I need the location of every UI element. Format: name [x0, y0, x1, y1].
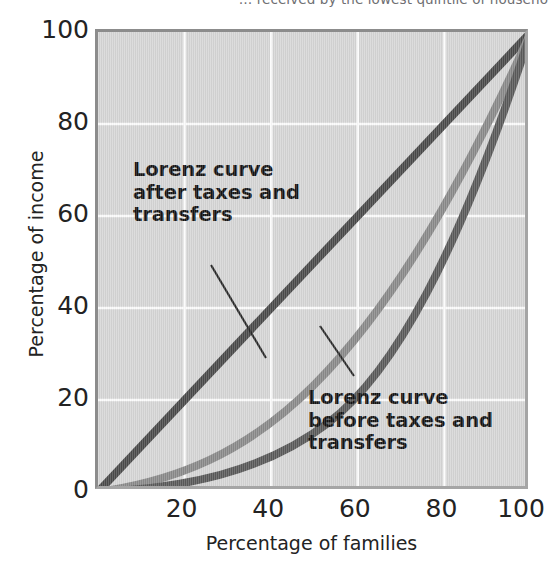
x-tick-80: 80 [401, 496, 481, 521]
annotation-after-taxes: Lorenz curve after taxes and transfers [133, 159, 348, 227]
y-tick-20: 20 [9, 385, 89, 410]
y-tick-100: 100 [9, 17, 89, 42]
y-tick-0: 0 [9, 477, 89, 502]
annotation-before-line-2: before taxes and [308, 410, 523, 433]
annotation-after-line-3: transfers [133, 204, 348, 227]
y-tick-60: 60 [9, 201, 89, 226]
annotation-before-line-1: Lorenz curve [308, 387, 523, 410]
annotation-before-line-3: transfers [308, 432, 523, 455]
x-tick-40: 40 [228, 496, 308, 521]
x-axis-title: Percentage of families [95, 532, 528, 554]
x-tick-20: 20 [142, 496, 222, 521]
annotation-before-taxes: Lorenz curve before taxes and transfers [308, 387, 523, 455]
y-tick-40: 40 [9, 293, 89, 318]
annotation-after-line-1: Lorenz curve [133, 159, 348, 182]
x-tick-100: 100 [481, 496, 550, 521]
chart-plot-area: Lorenz curve after taxes and transfers L… [95, 29, 528, 489]
annotation-after-line-2: after taxes and [133, 182, 348, 205]
y-axis-title: Percentage of income [25, 134, 47, 374]
x-tick-60: 60 [315, 496, 395, 521]
top-caption: … received by the lowest quintile of hou… [0, 0, 550, 7]
y-tick-80: 80 [9, 109, 89, 134]
